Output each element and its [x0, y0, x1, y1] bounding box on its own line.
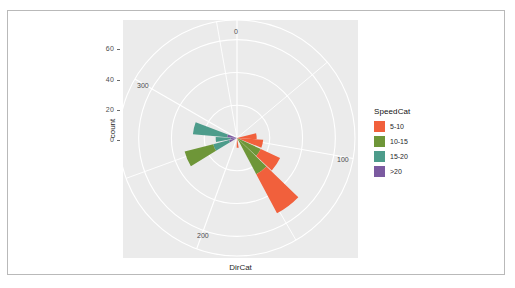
theta-label-100: 100 — [337, 156, 349, 163]
legend-item-15-20[interactable]: 15-20 — [374, 150, 464, 163]
polar-chart-figure: count 60 40 20 0 0 100 200 300 DirCat Sp… — [0, 0, 515, 288]
y-tick-label-20: 20 — [84, 106, 114, 113]
polar-panel — [123, 20, 358, 258]
x-axis-title: DirCat — [123, 263, 358, 272]
y-tick-label-40: 40 — [84, 76, 114, 83]
legend-item-label: >20 — [390, 168, 402, 175]
legend-item-label: 5-10 — [390, 123, 404, 130]
legend-item--20[interactable]: >20 — [374, 165, 464, 178]
polar-bars — [185, 122, 299, 213]
y-tick-mark-40 — [117, 80, 120, 81]
legend-title: SpeedCat — [374, 107, 464, 116]
polar-bar-segment — [185, 144, 216, 166]
y-tick-mark-20 — [117, 110, 120, 111]
polar-bar-segment — [213, 140, 230, 151]
legend-swatch-icon — [374, 136, 385, 147]
legend-item-label: 15-20 — [390, 153, 408, 160]
legend-item-10-15[interactable]: 10-15 — [374, 135, 464, 148]
legend: SpeedCat 5-1010-1515-20>20 — [374, 107, 464, 180]
legend-item-label: 10-15 — [390, 138, 408, 145]
legend-swatch-icon — [374, 166, 385, 177]
theta-label-0: 0 — [234, 28, 238, 35]
y-tick-mark-0 — [117, 140, 120, 141]
legend-item-5-10[interactable]: 5-10 — [374, 120, 464, 133]
legend-items: 5-1010-1515-20>20 — [374, 120, 464, 178]
y-tick-label-60: 60 — [84, 45, 114, 52]
theta-label-200: 200 — [197, 232, 209, 239]
y-tick-mark-60 — [117, 49, 120, 50]
y-tick-label-0: 0 — [84, 136, 114, 143]
legend-swatch-icon — [374, 151, 385, 162]
legend-swatch-icon — [374, 121, 385, 132]
polar-plot-svg — [123, 20, 358, 258]
theta-label-300: 300 — [137, 82, 149, 89]
